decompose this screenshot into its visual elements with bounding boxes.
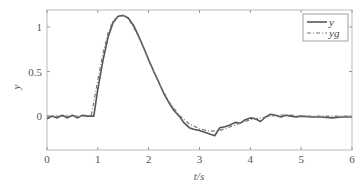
y-tick-label: 0.5 — [28, 66, 42, 78]
x-tick-label: 3 — [197, 153, 203, 165]
x-axis-label: t/s — [194, 170, 204, 182]
line-chart: 0123456 00.51 t/s y yyg — [0, 0, 364, 187]
legend: yyg — [303, 14, 348, 41]
y-tick-label: 0 — [37, 110, 43, 122]
x-tick-label: 6 — [349, 153, 355, 165]
y-axis-label: y — [10, 84, 22, 90]
y-tick-label: 1 — [37, 21, 43, 33]
x-tick-label: 0 — [44, 153, 50, 165]
x-tick-label: 4 — [248, 153, 254, 165]
x-tick-label: 1 — [95, 153, 101, 165]
x-tick-label: 2 — [146, 153, 152, 165]
x-tick-label: 5 — [298, 153, 304, 165]
legend-label-yg: yg — [328, 27, 340, 39]
